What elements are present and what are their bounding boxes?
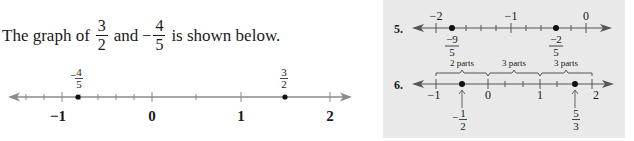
svg-text:−: − bbox=[452, 111, 458, 123]
tick-label: −1 bbox=[505, 9, 518, 23]
point-neg-two-fifths bbox=[553, 25, 559, 31]
svg-text:−: − bbox=[70, 69, 76, 81]
point-label-neg-four-fifths: − 4 5 bbox=[70, 66, 83, 90]
brace-label: 2 parts bbox=[450, 58, 475, 68]
svg-text:3: 3 bbox=[281, 66, 287, 78]
tick-label: 0 bbox=[485, 88, 491, 102]
number-lines-figure: −1 0 1 2 − 4 5 3 2 5. bbox=[0, 0, 634, 141]
point-label-three-halves: 3 2 bbox=[280, 66, 288, 90]
tick-label: 2 bbox=[326, 108, 334, 124]
problem-number: 6. bbox=[394, 78, 403, 92]
point-neg-four-fifths bbox=[75, 94, 80, 99]
svg-text:−9: −9 bbox=[446, 33, 458, 45]
brace-label: 3 parts bbox=[502, 58, 527, 68]
svg-text:5: 5 bbox=[76, 78, 82, 90]
parts-braces bbox=[436, 70, 592, 76]
svg-text:4: 4 bbox=[76, 66, 82, 78]
brace-label: 3 parts bbox=[554, 58, 579, 68]
tick-label: −1 bbox=[50, 108, 66, 124]
problem-6-number-line: 6. 2 parts 3 parts 3 parts −1 0 bbox=[394, 58, 614, 132]
svg-text:1: 1 bbox=[460, 107, 466, 119]
tick-label: −1 bbox=[428, 88, 441, 102]
tick-label: 1 bbox=[237, 108, 245, 124]
tick-label: 0 bbox=[583, 9, 589, 23]
svg-text:3: 3 bbox=[573, 120, 579, 132]
point-neg-one-half bbox=[459, 81, 465, 87]
svg-text:5: 5 bbox=[573, 107, 579, 119]
svg-text:2: 2 bbox=[460, 120, 466, 132]
point-label-five-thirds: 5 3 bbox=[572, 107, 580, 132]
main-number-line: −1 0 1 2 − 4 5 3 2 bbox=[8, 66, 352, 124]
point-label-neg-two-fifths: −2 5 bbox=[549, 33, 563, 58]
point-label-neg-one-half: − 1 2 bbox=[452, 107, 467, 132]
tick-label: 1 bbox=[537, 88, 543, 102]
svg-text:5: 5 bbox=[553, 46, 559, 58]
tick-label: −2 bbox=[430, 9, 443, 23]
problem-number: 5. bbox=[394, 22, 403, 36]
point-three-halves bbox=[282, 94, 287, 99]
tick-label: 0 bbox=[148, 108, 156, 124]
svg-text:2: 2 bbox=[281, 78, 287, 90]
problem-5-number-line: 5. −2 −1 0 −9 5 −2 bbox=[394, 9, 612, 58]
svg-text:−2: −2 bbox=[550, 33, 562, 45]
point-five-thirds bbox=[572, 81, 578, 87]
svg-text:5: 5 bbox=[449, 46, 455, 58]
tick-label: 2 bbox=[593, 88, 599, 102]
point-label-neg-nine-fifths: −9 5 bbox=[445, 33, 459, 58]
point-neg-nine-fifths bbox=[449, 25, 455, 31]
